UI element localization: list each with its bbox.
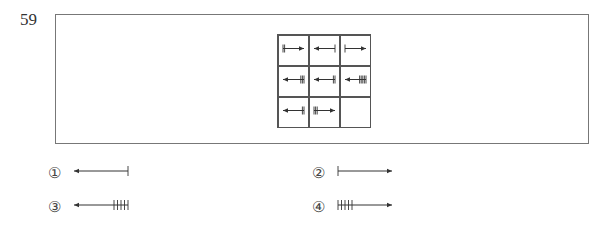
arrow-left-icon <box>279 96 308 129</box>
arrow-left-icon <box>310 34 339 67</box>
grid-cell <box>278 97 309 128</box>
grid-cell <box>309 97 340 128</box>
question-number: 59 <box>20 10 37 30</box>
grid-cell <box>340 35 371 66</box>
grid-cell-empty <box>340 97 371 128</box>
option-arrow-icon <box>68 163 148 183</box>
option-arrow-icon <box>68 197 148 217</box>
option-arrow-icon <box>332 163 412 183</box>
arrow-left-icon <box>341 65 370 98</box>
grid-cell <box>278 35 309 66</box>
option-4[interactable]: ④ <box>312 197 412 217</box>
arrow-left-icon <box>310 65 339 98</box>
grid-cell <box>278 66 309 97</box>
option-label: ① <box>48 164 68 182</box>
option-label: ③ <box>48 198 68 216</box>
option-arrow-icon <box>332 197 412 217</box>
option-2[interactable]: ② <box>312 163 412 183</box>
option-label: ④ <box>312 198 332 216</box>
arrow-right-icon <box>279 34 308 67</box>
arrow-right-icon <box>341 34 370 67</box>
grid-cell <box>309 66 340 97</box>
option-label: ② <box>312 164 332 182</box>
puzzle-grid <box>277 34 371 128</box>
option-3[interactable]: ③ <box>48 197 148 217</box>
arrow-left-icon <box>279 65 308 98</box>
grid-cell <box>309 35 340 66</box>
option-1[interactable]: ① <box>48 163 148 183</box>
arrow-right-icon <box>310 96 339 129</box>
grid-cell <box>340 66 371 97</box>
